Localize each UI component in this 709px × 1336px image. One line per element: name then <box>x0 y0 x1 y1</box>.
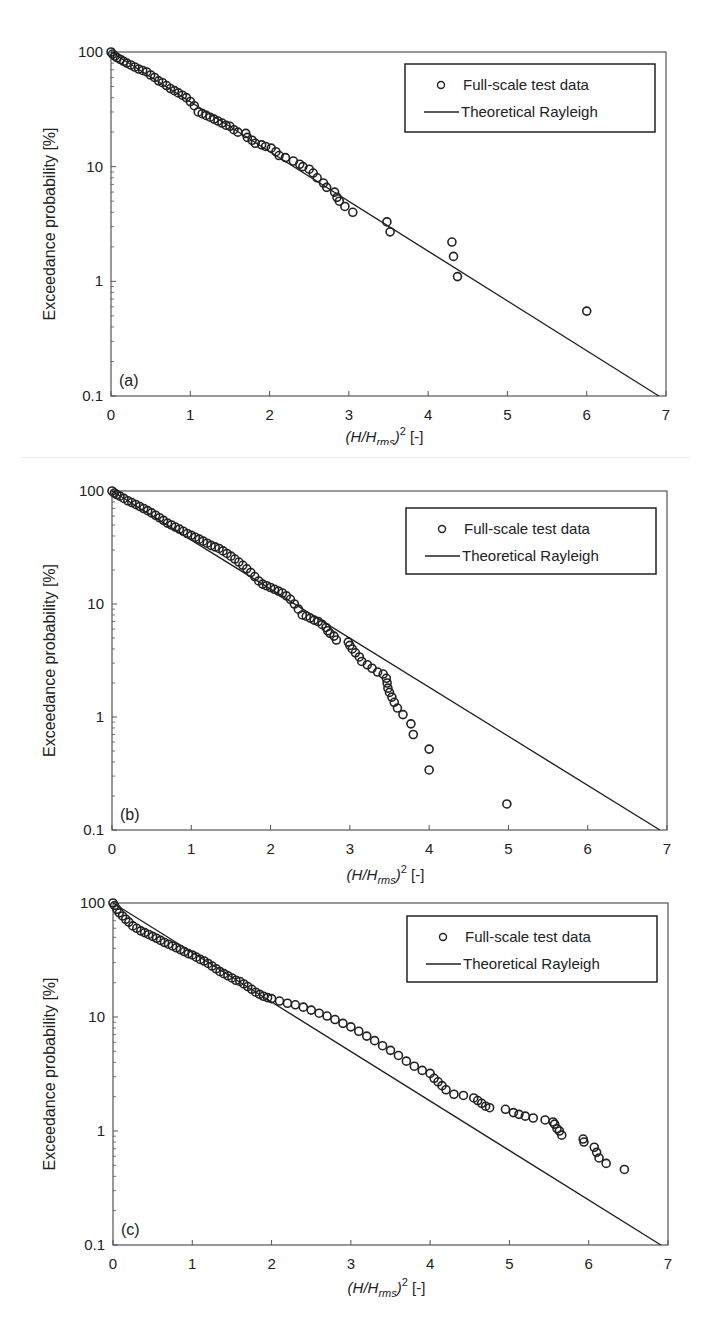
data-point <box>180 948 188 956</box>
data-point <box>111 902 119 910</box>
data-point <box>347 1023 355 1031</box>
data-point <box>113 491 121 499</box>
y-axis: 0.1110100 <box>78 43 116 404</box>
x-tick-label: 0 <box>109 1255 117 1272</box>
data-point <box>132 500 140 508</box>
data-point <box>386 688 394 696</box>
legend-circle-icon <box>440 934 447 941</box>
data-point <box>310 616 318 624</box>
data-point <box>208 962 216 970</box>
legend: Full-scale test dataTheoretical Rayleigh <box>407 916 657 982</box>
x-tick-label: 2 <box>265 406 273 423</box>
data-point <box>168 942 176 950</box>
legend-label-data: Full-scale test data <box>464 520 591 537</box>
data-point <box>243 565 251 573</box>
chart-panel-a: 012345670.1110100Exceedance probability … <box>0 0 709 445</box>
data-point <box>409 731 417 739</box>
data-point <box>363 661 371 669</box>
data-point <box>176 946 184 954</box>
data-point <box>236 977 244 985</box>
data-point <box>306 614 314 622</box>
data-point <box>450 1090 458 1098</box>
data-point <box>108 487 116 495</box>
x-tick-label: 3 <box>345 406 353 423</box>
data-point <box>368 664 376 672</box>
data-point <box>278 589 286 597</box>
x-tick-label: 4 <box>425 840 433 857</box>
x-axis-label: (H/Hrms)2 [-] <box>347 863 425 886</box>
data-point <box>223 549 231 557</box>
x-tick-label: 1 <box>187 840 195 857</box>
data-point <box>529 1114 537 1122</box>
data-point <box>394 1051 402 1059</box>
data-point <box>590 1143 598 1151</box>
data-point <box>593 1148 601 1156</box>
data-point <box>348 645 356 653</box>
panel-label: (b) <box>120 806 140 823</box>
y-tick-label: 100 <box>78 43 103 60</box>
data-point <box>390 698 398 706</box>
data-point <box>175 525 183 533</box>
y-tick-label: 0.1 <box>84 1236 105 1253</box>
legend-label-line: Theoretical Rayleigh <box>461 103 598 120</box>
x-tick-label: 5 <box>504 840 512 857</box>
y-axis: 0.1110100 <box>80 894 118 1253</box>
data-point <box>349 208 357 216</box>
data-point <box>187 531 195 539</box>
legend-circle-icon <box>439 526 446 533</box>
x-tick-label: 7 <box>662 406 670 423</box>
legend-box <box>406 508 656 574</box>
data-point <box>331 1016 339 1024</box>
data-point <box>341 202 349 210</box>
data-point <box>339 1019 347 1027</box>
data-point <box>580 1138 588 1146</box>
data-point <box>555 1127 563 1135</box>
data-point <box>122 915 130 923</box>
legend-label-line: Theoretical Rayleigh <box>462 547 599 564</box>
legend: Full-scale test dataTheoretical Rayleigh <box>406 508 656 574</box>
data-point <box>442 1086 450 1094</box>
data-point <box>291 1001 299 1009</box>
data-point <box>410 1062 418 1070</box>
data-point <box>393 704 401 712</box>
data-point <box>172 944 180 952</box>
x-tick-label: 6 <box>584 840 592 857</box>
data-point <box>224 972 232 980</box>
x-tick-label: 6 <box>585 1255 593 1272</box>
chart-a-svg: 012345670.1110100Exceedance probability … <box>0 0 709 445</box>
data-point <box>379 1042 387 1050</box>
data-point <box>579 1135 587 1143</box>
data-point <box>141 929 149 937</box>
data-point <box>382 674 390 682</box>
data-point <box>541 1116 549 1124</box>
data-point <box>129 922 137 930</box>
data-point <box>171 523 179 531</box>
data-point <box>425 766 433 774</box>
y-tick-label: 1 <box>95 272 103 289</box>
x-tick-label: 1 <box>188 1255 196 1272</box>
data-point <box>211 543 219 551</box>
data-point <box>549 1118 557 1126</box>
data-point <box>195 535 203 543</box>
y-tick-label: 100 <box>79 482 104 499</box>
x-tick-label: 0 <box>108 840 116 857</box>
x-axis-label: (H/Hrms)2 [-] <box>348 1276 426 1299</box>
data-point <box>199 537 207 545</box>
data-point <box>133 924 141 932</box>
data-point <box>294 605 302 613</box>
x-tick-label: 4 <box>426 1255 434 1272</box>
data-point <box>450 252 458 260</box>
data-point <box>167 521 175 529</box>
data-point <box>165 940 173 948</box>
data-point <box>470 1094 478 1102</box>
data-point <box>109 899 117 907</box>
data-point <box>153 934 161 942</box>
data-point <box>430 1074 438 1082</box>
data-point <box>244 983 252 991</box>
data-point <box>326 629 334 637</box>
data-point <box>160 516 168 524</box>
y-axis-label: Exceedance probability [%] <box>41 978 58 1171</box>
data-point <box>425 745 433 753</box>
data-point <box>156 514 164 522</box>
data-point <box>212 965 220 973</box>
